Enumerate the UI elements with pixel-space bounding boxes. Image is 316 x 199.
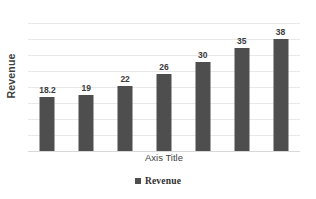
bar[interactable] — [234, 48, 249, 151]
bar[interactable] — [118, 86, 133, 151]
y-axis-title-label: Revenue — [5, 53, 17, 98]
square-marker-icon — [135, 178, 141, 184]
bar-value-label: 30 — [198, 50, 207, 60]
bar-slot: 35 — [222, 14, 261, 151]
bar[interactable] — [273, 39, 288, 151]
plot-area: 18.2192226303538 — [28, 14, 300, 151]
bar-slot: 22 — [106, 14, 145, 151]
bar-value-label: 18.2 — [39, 85, 56, 95]
bar-slot: 38 — [261, 14, 300, 151]
bar[interactable] — [195, 62, 210, 151]
y-axis-title: Revenue — [0, 0, 22, 151]
bar-value-label: 38 — [276, 27, 285, 37]
legend-item-revenue: Revenue — [145, 176, 181, 186]
bar-slot: 19 — [67, 14, 106, 151]
bar-value-label: 22 — [120, 74, 129, 84]
bar-value-label: 19 — [82, 83, 91, 93]
bar-series-revenue: 18.2192226303538 — [28, 14, 300, 151]
bar-value-label: 35 — [237, 36, 246, 46]
bar-chart: Revenue 18.2192226303538 Axis Title Reve… — [0, 0, 316, 199]
bar-slot: 18.2 — [28, 14, 67, 151]
bar-value-label: 26 — [159, 62, 168, 72]
bar[interactable] — [79, 95, 94, 151]
chart-legend: Revenue — [0, 176, 316, 186]
bar-slot: 26 — [145, 14, 184, 151]
x-axis-title: Axis Title — [28, 152, 300, 163]
bar[interactable] — [156, 74, 171, 151]
bar[interactable] — [40, 97, 55, 151]
bar-slot: 30 — [183, 14, 222, 151]
